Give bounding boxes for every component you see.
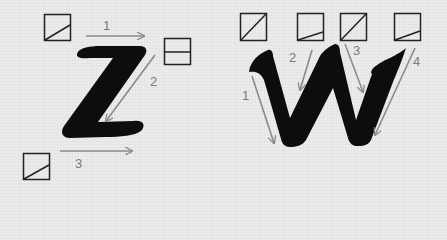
stroke-number-z-3: 3: [75, 156, 82, 171]
pen-angle-box-w-1: [241, 14, 267, 41]
stroke-number-w-2: 2: [289, 50, 296, 65]
pen-angle-box-z-3: [24, 154, 50, 180]
stroke-number-z-2: 2: [150, 74, 157, 89]
letter-w-group: 1 2 3 4: [241, 14, 421, 148]
stroke-number-z-1: 1: [103, 18, 110, 33]
stroke-number-w-3: 3: [353, 43, 360, 58]
pen-angle-box-w-2: [298, 14, 324, 41]
pen-angle-box-z-2: [165, 39, 191, 65]
letter-z-glyph: [62, 46, 146, 138]
pen-angle-box-w-3: [341, 14, 367, 41]
pen-angle-box-w-4: [395, 14, 421, 41]
stroke-number-w-4: 4: [413, 54, 420, 69]
pen-angle-box-z-1: [45, 15, 71, 41]
stroke-number-w-1: 1: [242, 88, 249, 103]
stroke-order-diagram: 1 2 3 1 2 3 4: [0, 0, 447, 184]
letter-w-glyph: [249, 44, 406, 147]
letter-z-group: 1 2 3: [24, 15, 191, 180]
